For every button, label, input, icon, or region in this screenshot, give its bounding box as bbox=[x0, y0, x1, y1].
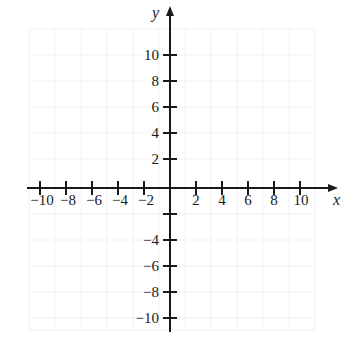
y-tick-label-neg10: −10 bbox=[136, 311, 159, 326]
x-tick-label-neg6: −6 bbox=[86, 193, 102, 208]
x-axis bbox=[27, 184, 338, 192]
y-tick-label-neg6: −6 bbox=[143, 259, 159, 274]
x-tick-label-2: 2 bbox=[192, 193, 200, 208]
y-tick-label-neg8: −8 bbox=[143, 285, 159, 300]
x-tick-label-10: 10 bbox=[294, 193, 309, 208]
x-tick-label-neg8: −8 bbox=[60, 193, 76, 208]
coordinate-plane-figure: −10 −8 −6 −4 −2 2 4 6 8 10 10 8 6 4 2 −4… bbox=[0, 0, 351, 337]
x-tick-label-neg4: −4 bbox=[112, 193, 128, 208]
grid-lines bbox=[29, 28, 316, 331]
y-axis-arrowhead bbox=[166, 6, 174, 16]
y-tick-label-6: 6 bbox=[152, 100, 160, 115]
y-tick-label-4: 4 bbox=[152, 126, 160, 141]
x-tick-label-4: 4 bbox=[218, 193, 226, 208]
x-tick-label-neg2: −2 bbox=[138, 193, 154, 208]
grid-horizontal-group bbox=[29, 29, 316, 330]
graph-canvas bbox=[0, 0, 351, 337]
x-axis-label: x bbox=[333, 192, 340, 208]
y-axis-label: y bbox=[152, 5, 159, 21]
x-tick-label-neg10: −10 bbox=[30, 193, 53, 208]
y-tick-label-neg4: −4 bbox=[143, 233, 159, 248]
x-tick-label-6: 6 bbox=[244, 193, 252, 208]
grid-vertical-group bbox=[29, 28, 315, 331]
y-tick-label-2: 2 bbox=[152, 152, 160, 167]
y-tick-label-10: 10 bbox=[144, 48, 159, 63]
x-tick-label-8: 8 bbox=[270, 193, 278, 208]
y-tick-label-8: 8 bbox=[152, 74, 160, 89]
